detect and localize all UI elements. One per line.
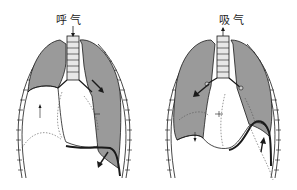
up-arrow-small	[39, 104, 42, 118]
dashed-reference-lines	[22, 92, 98, 148]
airflow-down-arrow	[71, 26, 75, 37]
inhale-panel: 吸气	[149, 0, 297, 190]
pleural-space	[28, 86, 98, 147]
left-lung	[174, 40, 215, 140]
inhale-diagram	[149, 0, 297, 190]
diaphragm-up-arrow	[260, 137, 266, 152]
left-lung	[28, 40, 66, 92]
airflow-up-arrow	[221, 27, 225, 36]
exhale-diagram	[0, 0, 148, 190]
right-lung	[231, 40, 272, 136]
exhale-panel: 呼气	[0, 0, 148, 190]
